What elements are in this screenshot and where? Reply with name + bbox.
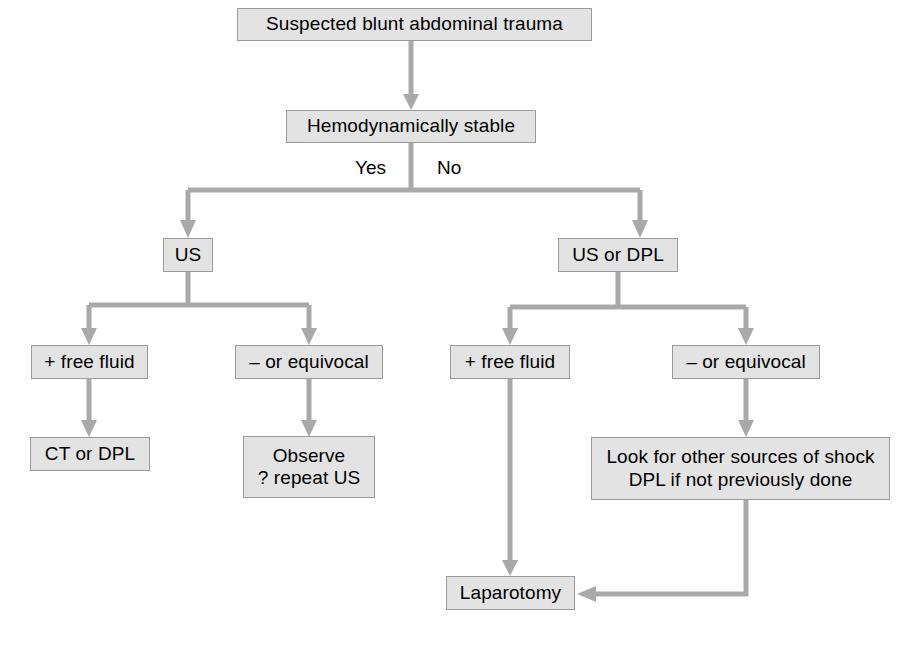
- arrowhead-right-split-to-positive: [502, 328, 518, 345]
- arrowhead-left-split-to-positive: [81, 328, 97, 345]
- arrowhead-left-split-to-negative: [301, 328, 317, 345]
- node-left-negative-or-equivocal[interactable]: – or equivocal: [235, 345, 383, 379]
- arrowhead-trauma-to-stable: [403, 94, 419, 110]
- node-right-negative-or-equivocal[interactable]: – or equivocal: [672, 345, 820, 379]
- edge-label-yes: Yes: [355, 157, 386, 179]
- node-look-for-other-sources-of-shock[interactable]: Look for other sources of shock DPL if n…: [591, 437, 890, 500]
- arrowhead-split-to-us: [180, 220, 196, 238]
- arrowhead-other-sources-to-laparotomy: [577, 586, 596, 602]
- node-observe-repeat-us[interactable]: Observe ? repeat US: [243, 436, 375, 498]
- arrowhead-split-to-us-or-dpl: [632, 220, 648, 238]
- arrowhead-left-negative-to-observe: [301, 420, 317, 437]
- edge-label-no: No: [437, 157, 461, 179]
- node-laparotomy[interactable]: Laparotomy: [446, 576, 575, 610]
- node-suspected-blunt-abdominal-trauma[interactable]: Suspected blunt abdominal trauma: [237, 8, 592, 41]
- connector-layer: [0, 0, 918, 647]
- flowchart-canvas: Suspected blunt abdominal trauma Hemodyn…: [0, 0, 918, 647]
- connector-other-sources-to-laparotomy: [594, 500, 746, 594]
- node-ct-or-dpl[interactable]: CT or DPL: [30, 437, 150, 471]
- node-us-or-dpl[interactable]: US or DPL: [558, 238, 678, 272]
- arrowhead-right-split-to-negative: [738, 328, 754, 345]
- node-hemodynamically-stable[interactable]: Hemodynamically stable: [286, 110, 536, 143]
- node-left-positive-free-fluid[interactable]: + free fluid: [31, 345, 148, 379]
- arrowhead-left-positive-to-ct: [81, 420, 97, 437]
- node-us[interactable]: US: [163, 238, 213, 272]
- arrowhead-right-positive-to-laparotomy: [502, 560, 518, 576]
- node-right-positive-free-fluid[interactable]: + free fluid: [450, 345, 570, 379]
- arrowhead-right-negative-to-other-sources: [738, 420, 754, 437]
